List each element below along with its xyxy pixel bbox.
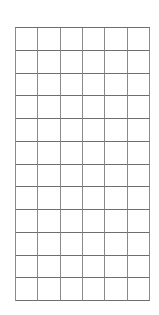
- grid-cell: [105, 119, 127, 142]
- grid-cell: [16, 187, 38, 210]
- grid-cell: [16, 210, 38, 233]
- grid-cell: [61, 256, 83, 279]
- grid-cell: [128, 278, 150, 301]
- grid-cell: [16, 74, 38, 97]
- grid-cell: [38, 28, 60, 51]
- grid-cell: [105, 187, 127, 210]
- grid-cell: [128, 142, 150, 165]
- grid-cell: [61, 187, 83, 210]
- grid-cell: [16, 165, 38, 188]
- grid-cell: [61, 165, 83, 188]
- grid-cell: [128, 119, 150, 142]
- grid-cell: [38, 96, 60, 119]
- grid-cell: [128, 51, 150, 74]
- grid-cell: [38, 278, 60, 301]
- grid-cell: [61, 28, 83, 51]
- grid-cell: [105, 210, 127, 233]
- grid-cell: [61, 233, 83, 256]
- grid-cell: [128, 165, 150, 188]
- grid-cell: [83, 256, 105, 279]
- grid-cell: [16, 96, 38, 119]
- grid-cell: [38, 142, 60, 165]
- grid-cell: [83, 119, 105, 142]
- grid-cell: [61, 51, 83, 74]
- grid-cell: [105, 142, 127, 165]
- grid-cell: [83, 142, 105, 165]
- grid-cell: [105, 51, 127, 74]
- grid-cell: [16, 51, 38, 74]
- grid-cell: [105, 74, 127, 97]
- grid-cell: [128, 74, 150, 97]
- grid-cell: [38, 187, 60, 210]
- grid-cell: [38, 210, 60, 233]
- grid-cell: [83, 165, 105, 188]
- grid-cell: [16, 256, 38, 279]
- grid-cell: [105, 233, 127, 256]
- grid-cell: [16, 278, 38, 301]
- grid-cell: [128, 28, 150, 51]
- grid-cell: [83, 187, 105, 210]
- grid-cell: [16, 119, 38, 142]
- grid-cell: [105, 256, 127, 279]
- grid-cell: [38, 119, 60, 142]
- grid-cell: [128, 210, 150, 233]
- grid-cell: [61, 142, 83, 165]
- grid-cell: [105, 28, 127, 51]
- grid-cell: [128, 256, 150, 279]
- grid-cell: [38, 74, 60, 97]
- canvas: [0, 0, 159, 315]
- grid-cell: [105, 165, 127, 188]
- grid-cell: [38, 165, 60, 188]
- empty-grid: [15, 27, 150, 301]
- grid-cell: [61, 278, 83, 301]
- grid-cell: [105, 96, 127, 119]
- grid-cell: [83, 96, 105, 119]
- grid-cell: [38, 233, 60, 256]
- grid-cell: [83, 51, 105, 74]
- grid-cell: [61, 210, 83, 233]
- grid-cell: [105, 278, 127, 301]
- grid-cell: [61, 74, 83, 97]
- grid-cell: [61, 96, 83, 119]
- grid-cell: [16, 28, 38, 51]
- grid-cell: [16, 233, 38, 256]
- grid-cell: [83, 28, 105, 51]
- grid-cell: [128, 187, 150, 210]
- grid-cell: [83, 210, 105, 233]
- grid-cell: [83, 74, 105, 97]
- grid-cell: [83, 278, 105, 301]
- grid-cell: [61, 119, 83, 142]
- grid-cell: [38, 256, 60, 279]
- grid-cell: [16, 142, 38, 165]
- grid-cell: [38, 51, 60, 74]
- grid-cell: [83, 233, 105, 256]
- grid-cell: [128, 96, 150, 119]
- grid-cell: [128, 233, 150, 256]
